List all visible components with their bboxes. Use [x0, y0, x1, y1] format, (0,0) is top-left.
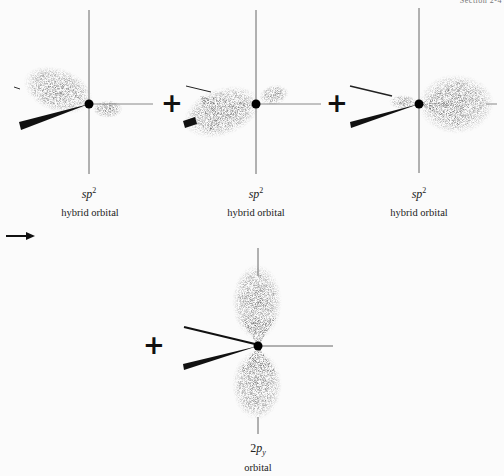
plus-sign-3: +: [143, 332, 165, 358]
orbital-2-symbol: sp2: [216, 186, 296, 202]
orbital-4-description: orbital: [208, 462, 308, 473]
2py-orbital: [183, 248, 333, 434]
orbital-diagram: [0, 0, 504, 476]
sp2-orbital-3: [350, 8, 497, 173]
orbital-1-symbol: sp2: [49, 186, 129, 202]
sp2-orbital-1: [14, 10, 153, 174]
orbital-3-symbol: sp2: [379, 186, 459, 202]
orbital-2-description: hybrid orbital: [206, 207, 306, 218]
orbital-3-description: hybrid orbital: [369, 207, 469, 218]
sp2-orbital-2: [176, 10, 321, 174]
plus-sign-1: +: [161, 90, 183, 116]
orbital-4-symbol: 2py: [218, 441, 298, 457]
arrow-icon: [6, 232, 35, 240]
orbital-1-description: hybrid orbital: [40, 207, 140, 218]
plus-sign-2: +: [326, 90, 348, 116]
